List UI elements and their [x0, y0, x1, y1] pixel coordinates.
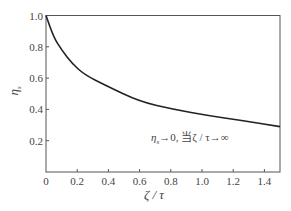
x-tick-label: 0.6: [133, 175, 147, 187]
x-tick-label: 1.2: [226, 175, 240, 187]
x-tick-label: 0.8: [164, 175, 178, 187]
y-axis-label-sub: s: [15, 86, 23, 89]
y-tick-label: 0.4: [29, 103, 43, 115]
x-tick-label: 0.4: [102, 175, 116, 187]
x-axis-label: ζ / τ: [144, 187, 164, 203]
x-tick-label: 0: [43, 175, 49, 187]
chart-plot: 00.20.40.60.81.01.21.40.20.40.60.81.0: [0, 0, 291, 211]
y-axis-label-symbol: η: [6, 89, 21, 95]
data-curve: [46, 16, 280, 127]
annotation-text: →0, 当ζ / τ→∞: [159, 131, 228, 143]
y-tick-label: 0.2: [29, 135, 43, 147]
y-tick-label: 0.6: [29, 72, 43, 84]
y-tick-label: 0.8: [29, 41, 43, 53]
x-axis-label-text: ζ / τ: [144, 187, 164, 202]
x-tick-label: 1.4: [258, 175, 272, 187]
annotation: ηs→0, 当ζ / τ→∞: [151, 128, 229, 146]
y-axis-label: ηs: [6, 86, 24, 95]
x-tick-label: 0.2: [70, 175, 84, 187]
plot-frame: [46, 16, 280, 173]
x-tick-label: 1.0: [195, 175, 209, 187]
y-tick-label: 1.0: [29, 10, 43, 22]
